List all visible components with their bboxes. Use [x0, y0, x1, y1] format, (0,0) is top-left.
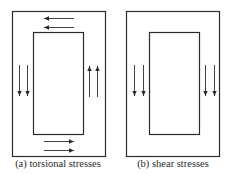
stress-diagrams [0, 0, 229, 174]
left-arrows-down-icon [135, 65, 144, 96]
inner-hollow-a [34, 33, 84, 135]
figure-a-torsional [13, 12, 106, 157]
top-arrows-left-icon [44, 19, 74, 28]
right-arrows-down-icon [206, 65, 215, 96]
right-arrows-up-icon [90, 66, 98, 97]
left-arrows-down-icon [20, 65, 28, 96]
inner-hollow-b [150, 33, 200, 135]
bottom-arrows-right-icon [44, 142, 74, 151]
figure-b-shear [127, 12, 220, 157]
caption-b: (b) shear stresses [115, 158, 229, 169]
caption-a: (a) torsional stresses [0, 158, 116, 169]
